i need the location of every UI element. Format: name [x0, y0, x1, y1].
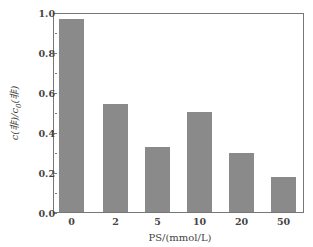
- y-minor-tick: [55, 113, 57, 114]
- bar-10: [187, 112, 212, 212]
- y-tick-label: 0.2: [38, 168, 55, 179]
- x-tick-label: 20: [235, 216, 248, 227]
- x-tick-label: 0: [68, 216, 75, 227]
- y-minor-tick: [55, 153, 57, 154]
- y-tick-label: 0.0: [38, 208, 55, 219]
- x-tick-label: 50: [277, 216, 290, 227]
- bar-5: [145, 147, 170, 212]
- plot-area: [53, 13, 304, 213]
- x-tick-label: 5: [154, 216, 161, 227]
- y-tick-label: 0.4: [38, 128, 55, 139]
- y-minor-tick: [55, 33, 57, 34]
- y-tick-label: 0.8: [38, 48, 55, 59]
- bar-50: [271, 177, 296, 212]
- x-tick-label: 10: [193, 216, 206, 227]
- x-tick-label: 2: [112, 216, 119, 227]
- y-minor-tick: [55, 193, 57, 194]
- y-axis-title: c(非)/c0(非): [6, 86, 23, 141]
- bar-20: [229, 153, 254, 212]
- bar-2: [103, 104, 128, 212]
- y-minor-tick: [55, 73, 57, 74]
- y-tick-label: 0.6: [38, 88, 55, 99]
- y-tick-label: 1.0: [38, 8, 55, 19]
- bar-0: [59, 19, 84, 212]
- x-axis-title: PS/(mmol/L): [149, 232, 212, 243]
